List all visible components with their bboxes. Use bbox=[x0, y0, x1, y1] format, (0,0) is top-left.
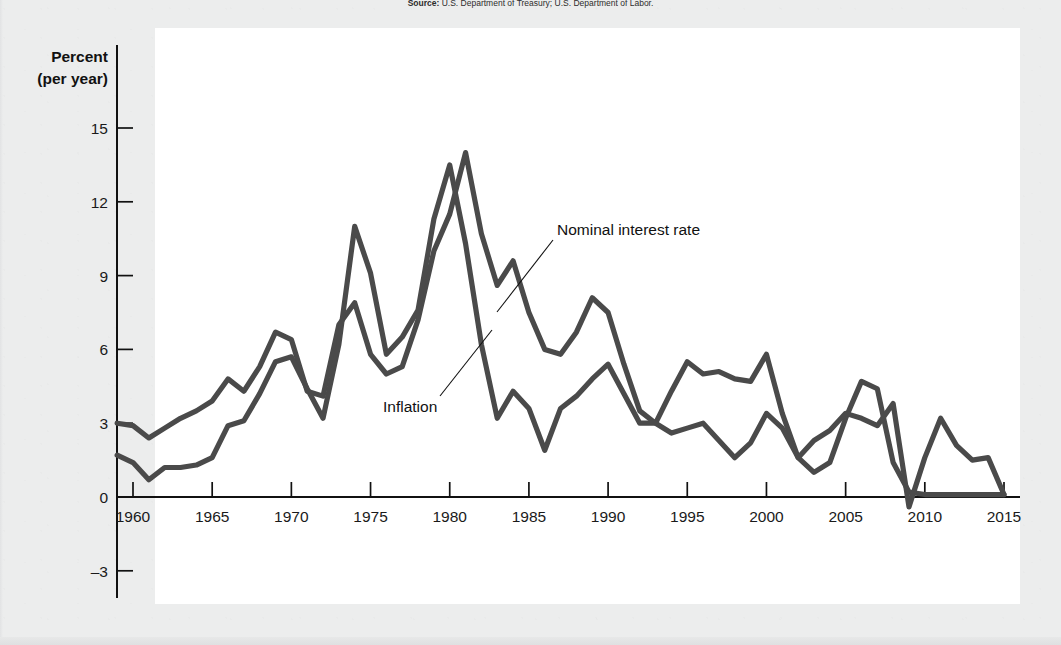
y-tick-label: –3 bbox=[91, 563, 108, 580]
x-tick-group: 1960196519701975198019851990199520002005… bbox=[116, 482, 1021, 525]
series-line-nominal-interest-rate bbox=[117, 153, 1004, 495]
x-tick-label: 1975 bbox=[353, 508, 387, 525]
x-tick-label: 2000 bbox=[749, 508, 784, 525]
y-tick-label: 0 bbox=[99, 489, 108, 506]
x-tick-label: 1985 bbox=[512, 508, 546, 525]
y-tick-label: 15 bbox=[91, 120, 108, 137]
x-tick-label: 1980 bbox=[432, 508, 467, 525]
y-tick-label: 9 bbox=[99, 268, 108, 285]
x-tick-label: 2005 bbox=[828, 508, 862, 525]
y-tick-label: 3 bbox=[99, 415, 108, 432]
x-tick-label: 2010 bbox=[908, 508, 943, 525]
page-bottom-edge bbox=[0, 637, 1061, 645]
y-axis-title-line2: (per year) bbox=[37, 70, 108, 87]
series-line-inflation bbox=[117, 165, 1004, 507]
inflation-series-label: Inflation bbox=[383, 398, 437, 415]
nominal-series-label: Nominal interest rate bbox=[557, 221, 700, 238]
x-tick-label: 1995 bbox=[670, 508, 704, 525]
y-tick-label: 12 bbox=[91, 194, 108, 211]
y-tick-label: 6 bbox=[99, 341, 108, 358]
x-tick-label: 1970 bbox=[274, 508, 309, 525]
line-chart: 15129630–3 19601965197019751980198519901… bbox=[0, 0, 1061, 645]
x-tick-label: 2015 bbox=[987, 508, 1021, 525]
y-axis-title-line1: Percent bbox=[51, 48, 108, 65]
x-tick-label: 1990 bbox=[591, 508, 626, 525]
x-tick-label: 1960 bbox=[116, 508, 151, 525]
x-tick-label: 1965 bbox=[195, 508, 229, 525]
